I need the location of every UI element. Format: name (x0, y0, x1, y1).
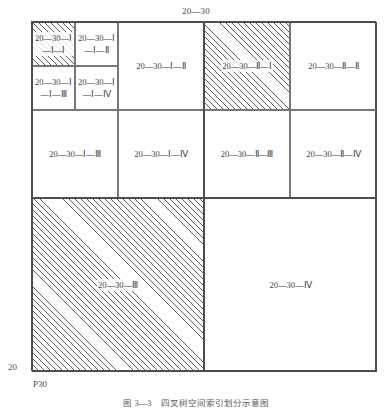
cell-q1-sub3[interactable]: 20—30—Ⅰ—Ⅰ—Ⅲ (32, 66, 75, 110)
cell-label: 20—30—Ⅱ—Ⅲ (220, 148, 275, 160)
cell-q4[interactable]: 20—30—Ⅳ (204, 198, 377, 372)
cell-q1-sub4[interactable]: 20—30—Ⅰ—Ⅰ—Ⅳ (75, 66, 118, 110)
cell-label: 20—30—Ⅱ—Ⅰ (221, 60, 273, 72)
cell-q1-4[interactable]: 20—30—Ⅰ—Ⅳ (118, 110, 204, 198)
cell-q1-sub1[interactable]: 20—30—Ⅰ—Ⅰ—Ⅰ (32, 22, 75, 66)
origin-label: P30 (33, 379, 47, 389)
top-axis-label: 20—30 (0, 6, 392, 16)
cell-label: 20—30—Ⅰ—Ⅰ—Ⅲ (33, 76, 74, 101)
left-axis-label: 20 (8, 362, 17, 372)
cell-q1-sub2[interactable]: 20—30—Ⅰ—Ⅰ—Ⅱ (75, 22, 118, 66)
cell-label: 20—30—Ⅰ—Ⅱ (135, 60, 187, 72)
cell-label: 20—30—Ⅲ (97, 279, 139, 291)
cell-q2-4[interactable]: 20—30—Ⅱ—Ⅳ (290, 110, 377, 198)
grid-frame: 20—30—Ⅰ—Ⅰ—Ⅰ 20—30—Ⅰ—Ⅰ—Ⅱ 20—30—Ⅰ—Ⅰ—Ⅲ 20—3… (31, 21, 376, 371)
cell-label: 20—30—Ⅰ—Ⅳ (133, 148, 189, 160)
cell-label: 20—30—Ⅳ (269, 279, 313, 291)
cell-q1-2[interactable]: 20—30—Ⅰ—Ⅱ (118, 22, 204, 110)
cell-q1-3[interactable]: 20—30—Ⅰ—Ⅲ (32, 110, 118, 198)
cell-q3[interactable]: 20—30—Ⅲ (32, 198, 204, 372)
cell-label: 20—30—Ⅰ—Ⅰ—Ⅳ (76, 76, 117, 101)
cell-label: 20—30—Ⅰ—Ⅰ—Ⅰ (33, 32, 74, 57)
cell-label: 20—30—Ⅰ—Ⅰ—Ⅱ (76, 32, 117, 57)
cell-q2-2[interactable]: 20—30—Ⅱ—Ⅱ (290, 22, 377, 110)
cell-label: 20—30—Ⅰ—Ⅲ (48, 148, 102, 160)
cell-label: 20—30—Ⅱ—Ⅱ (307, 60, 360, 72)
cell-q2-3[interactable]: 20—30—Ⅱ—Ⅲ (204, 110, 290, 198)
cell-q2-1[interactable]: 20—30—Ⅱ—Ⅰ (204, 22, 290, 110)
cell-label: 20—30—Ⅱ—Ⅳ (305, 148, 362, 160)
figure-caption: 图 3—3 四叉树空间索引划分示意图 (0, 396, 392, 408)
